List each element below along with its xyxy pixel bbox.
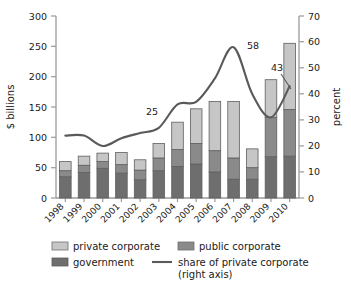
x-axis-year-label: 2007 <box>211 201 234 224</box>
x-axis-year-label: 2010 <box>267 201 290 224</box>
bar-segment <box>190 164 202 198</box>
x-axis-year-label: 1998 <box>42 201 65 224</box>
x-axis-year-label: 2000 <box>80 201 103 224</box>
bar-segment <box>134 160 146 170</box>
bar-segment <box>153 143 165 158</box>
legend-label-private-corporate: private corporate <box>73 241 160 252</box>
left-axis-title: $ billions <box>5 85 16 130</box>
bar-segment <box>246 149 258 168</box>
left-tick-200: 200 <box>29 71 47 82</box>
x-axis-year-label: 2009 <box>248 201 271 224</box>
bar-segment <box>265 80 277 118</box>
x-axis-year-label: 1999 <box>61 201 84 224</box>
bar-segment <box>228 179 240 198</box>
right-tick-30: 30 <box>308 114 320 125</box>
bar-segment <box>97 168 109 198</box>
bar-segment <box>284 109 296 156</box>
x-axis-year-label: 2005 <box>173 201 196 224</box>
left-axis-ticks <box>51 16 56 198</box>
legend-label-public-corporate: public corporate <box>199 241 281 252</box>
right-tick-10: 10 <box>308 166 320 177</box>
chart-figure: 0 50 100 150 200 250 300 $ billions 0 <box>0 0 351 285</box>
bar-segment <box>60 162 72 171</box>
bar-segment <box>78 156 90 165</box>
right-axis-ticks <box>299 16 304 198</box>
bar-segment <box>116 153 128 165</box>
right-tick-40: 40 <box>308 88 320 99</box>
left-tick-100: 100 <box>29 132 47 143</box>
left-axis: 0 50 100 150 200 250 300 $ billions <box>5 11 56 204</box>
x-axis-year-label: 2004 <box>155 201 178 224</box>
bar-segment <box>209 102 221 151</box>
legend-swatch-private-corporate <box>52 242 68 250</box>
bar-segment <box>172 122 184 149</box>
bar-segment <box>97 162 109 169</box>
right-tick-60: 60 <box>308 36 320 47</box>
bar-segment <box>284 43 296 109</box>
bar-segment <box>78 165 90 172</box>
legend-label-share-right-axis: (right axis) <box>178 269 233 280</box>
bar-segment <box>60 171 72 177</box>
bar-segment <box>265 157 277 198</box>
left-tick-50: 50 <box>35 162 47 173</box>
bar-segment <box>97 153 109 161</box>
bar-segment <box>60 177 72 198</box>
stacked-bars-group <box>60 43 296 198</box>
x-axis: 1998199920002001200220032004200520062007… <box>42 198 299 225</box>
bar-segment <box>78 173 90 198</box>
right-tick-50: 50 <box>308 62 320 73</box>
x-axis-year-label: 2008 <box>229 201 252 224</box>
x-axis-year-label: 2006 <box>192 201 215 224</box>
annotation-58: 58 <box>247 40 259 51</box>
annotation-25: 25 <box>146 106 158 117</box>
bar-segment <box>209 172 221 198</box>
bar-segment <box>265 117 277 156</box>
right-tick-0: 0 <box>308 193 314 204</box>
chart-svg: 0 50 100 150 200 250 300 $ billions 0 <box>0 0 351 285</box>
bar-segment <box>116 165 128 173</box>
bar-segment <box>116 173 128 198</box>
x-axis-year-label: 2001 <box>99 201 122 224</box>
bar-segment <box>246 179 258 198</box>
legend-swatch-public-corporate <box>178 242 194 250</box>
right-tick-70: 70 <box>308 11 320 22</box>
right-tick-20: 20 <box>308 140 320 151</box>
bar-segment <box>153 171 165 198</box>
bar-segment <box>134 180 146 198</box>
left-tick-150: 150 <box>29 102 47 113</box>
bar-segment <box>134 170 146 180</box>
left-tick-0: 0 <box>41 193 47 204</box>
bar-segment <box>153 158 165 171</box>
bar-segment <box>190 143 202 164</box>
x-axis-labels: 1998199920002001200220032004200520062007… <box>42 201 290 224</box>
legend-swatch-government <box>52 258 68 266</box>
bar-segment <box>284 156 296 198</box>
left-tick-300: 300 <box>29 11 47 22</box>
left-tick-250: 250 <box>29 41 47 52</box>
bar-segment <box>209 151 221 172</box>
legend-label-government: government <box>73 257 134 268</box>
legend: private corporate public corporate gover… <box>52 241 309 280</box>
legend-label-share-of-private-corporate: share of private corporate <box>178 257 309 268</box>
right-axis-title: percent <box>331 88 342 126</box>
bar-segment <box>190 109 202 144</box>
x-axis-year-label: 2002 <box>117 201 140 224</box>
bar-segment <box>246 168 258 180</box>
annotation-43: 43 <box>271 62 283 73</box>
bar-segment <box>228 102 240 158</box>
x-axis-year-label: 2003 <box>136 201 159 224</box>
bar-segment <box>172 166 184 198</box>
bar-segment <box>172 149 184 166</box>
right-axis: 0 10 20 30 40 50 60 70 percent <box>299 11 342 204</box>
bar-segment <box>228 158 240 179</box>
